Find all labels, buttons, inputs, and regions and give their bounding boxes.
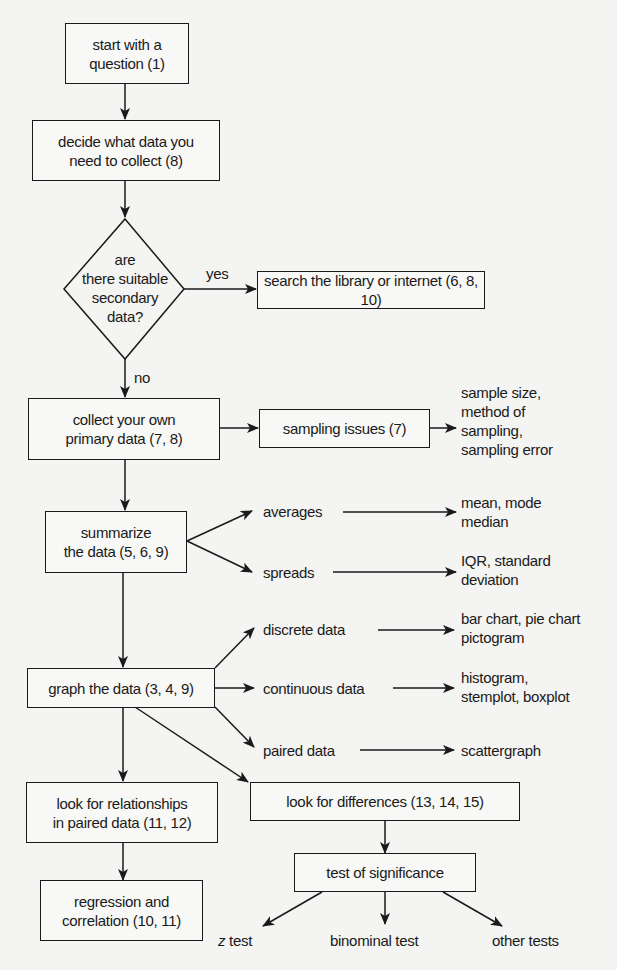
node-spreads: spreads: [263, 563, 314, 582]
ztest-label: test: [225, 932, 252, 949]
node-differences: look for differences (13, 14, 15): [250, 782, 520, 821]
node-decision-line2: there suitable: [65, 269, 185, 288]
node-discrete: discrete data: [263, 620, 345, 639]
node-continuous: continuous data: [263, 679, 364, 698]
node-discrete-detail: bar chart, pie chart pictogram: [461, 609, 580, 647]
node-relationships: look for relationships in paired data (1…: [26, 782, 218, 843]
node-start-line2: question (1): [89, 54, 165, 73]
node-collect-line2: primary data (7, 8): [66, 429, 183, 448]
node-graph: graph the data (3, 4, 9): [27, 668, 215, 708]
sampling-detail-line4: sampling error: [461, 440, 553, 459]
node-decision-line1: are: [65, 250, 185, 269]
edge-label-no: no: [134, 368, 150, 387]
node-averages-detail: mean, mode median: [461, 493, 541, 531]
node-other: other tests: [492, 931, 559, 950]
node-sampling-detail: sample size, method of sampling, samplin…: [461, 383, 553, 459]
node-ztest: z test: [218, 931, 252, 950]
node-decision: are there suitable secondary data?: [65, 250, 185, 326]
node-significance: test of significance: [294, 853, 476, 892]
node-search-label: search the library or internet (6, 8, 10…: [258, 271, 484, 309]
sampling-detail-line2: method of: [461, 402, 553, 421]
node-averages: averages: [263, 502, 322, 521]
node-binominal: binominal test: [330, 931, 418, 950]
node-start: start with a question (1): [65, 23, 189, 84]
edge-label-yes: yes: [206, 264, 228, 283]
node-relationships-line2: in paired data (11, 12): [53, 813, 192, 832]
node-collect-line1: collect your own: [73, 410, 176, 429]
spreads-detail-line1: IQR, standard: [461, 551, 550, 570]
node-continuous-detail: histogram, stemplot, boxplot: [461, 668, 569, 706]
node-regression-line1: regression and: [74, 892, 169, 911]
spreads-detail-line2: deviation: [461, 570, 550, 589]
continuous-detail-line2: stemplot, boxplot: [461, 687, 569, 706]
node-decision-line4: data?: [65, 307, 185, 326]
node-summarize-line1: summarize: [81, 523, 152, 542]
node-graph-label: graph the data (3, 4, 9): [48, 679, 193, 698]
node-search: search the library or internet (6, 8, 10…: [257, 271, 485, 309]
node-sampling-label: sampling issues (7): [283, 419, 407, 438]
node-spreads-detail: IQR, standard deviation: [461, 551, 550, 589]
node-decide-line2: need to collect (8): [69, 151, 183, 170]
node-summarize: summarize the data (5, 6, 9): [45, 511, 187, 573]
node-decide-line1: decide what data you: [58, 132, 194, 151]
averages-detail-line2: median: [461, 512, 541, 531]
node-regression-line2: correlation (10, 11): [62, 911, 181, 930]
discrete-detail-line1: bar chart, pie chart: [461, 609, 580, 628]
node-regression: regression and correlation (10, 11): [40, 880, 203, 941]
node-decision-line3: secondary: [65, 288, 185, 307]
node-decide: decide what data you need to collect (8): [32, 120, 220, 181]
continuous-detail-line1: histogram,: [461, 668, 569, 687]
averages-detail-line1: mean, mode: [461, 493, 541, 512]
node-relationships-line1: look for relationships: [57, 794, 188, 813]
node-collect: collect your own primary data (7, 8): [28, 398, 220, 460]
node-summarize-line2: the data (5, 6, 9): [64, 542, 169, 561]
sampling-detail-line1: sample size,: [461, 383, 553, 402]
node-significance-label: test of significance: [326, 863, 443, 882]
node-start-line1: start with a: [93, 35, 162, 54]
discrete-detail-line2: pictogram: [461, 628, 580, 647]
node-paired: paired data: [263, 741, 335, 760]
sampling-detail-line3: sampling,: [461, 421, 553, 440]
node-differences-label: look for differences (13, 14, 15): [286, 792, 483, 811]
node-paired-detail: scattergraph: [461, 741, 541, 760]
node-sampling: sampling issues (7): [259, 409, 430, 448]
